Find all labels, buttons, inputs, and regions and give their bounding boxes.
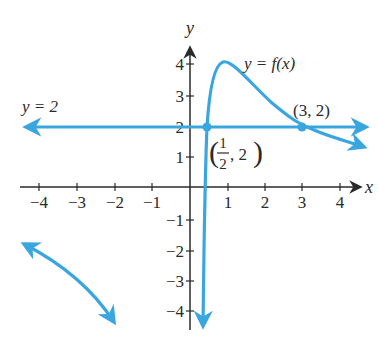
y-tick-4: 4	[176, 55, 185, 74]
frac-numerator: 1	[219, 135, 227, 151]
point-left-y: , 2	[230, 145, 247, 164]
x-tick-1: 1	[224, 193, 233, 212]
curve-left-branch	[24, 244, 114, 322]
point-half-2	[203, 123, 212, 132]
chart: −4 −3 −2 −1 1 2 3 4 4 3 2 1 −1 −2 −3 −4 …	[0, 0, 379, 342]
y-tick-neg2: −2	[166, 242, 184, 261]
y-tick-3: 3	[176, 87, 185, 106]
x-tick-4: 4	[336, 193, 345, 212]
point-left-label: ( 1 2 , 2 )	[209, 135, 263, 172]
point-right-label: (3, 2)	[293, 101, 330, 120]
y-tick-1: 1	[176, 148, 185, 167]
svg-text:(: (	[209, 135, 219, 169]
y-tick-neg3: −3	[166, 272, 184, 291]
frac-denominator: 2	[219, 156, 227, 172]
y-tick-neg1: −1	[166, 211, 184, 230]
curve-label: y = f(x)	[242, 54, 295, 73]
y-axis	[186, 48, 194, 330]
x-tick-labels: −4 −3 −2 −1 1 2 3 4	[30, 193, 345, 212]
line-label: y = 2	[20, 97, 59, 116]
point-3-2	[298, 123, 307, 132]
svg-text:): )	[253, 135, 263, 169]
x-tick-3: 3	[298, 193, 307, 212]
x-tick-neg3: −3	[68, 193, 86, 212]
y-tick-labels: 4 3 2 1 −1 −2 −3 −4	[166, 55, 185, 321]
x-tick-neg1: −1	[143, 193, 161, 212]
x-tick-neg4: −4	[30, 193, 49, 212]
x-tick-2: 2	[261, 193, 270, 212]
y-axis-label: y	[184, 18, 194, 38]
x-axis-label: x	[364, 177, 373, 197]
y-tick-neg4: −4	[166, 302, 185, 321]
x-tick-neg2: −2	[106, 193, 124, 212]
